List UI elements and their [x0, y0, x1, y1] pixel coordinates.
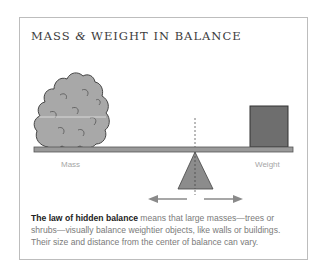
weight-label: Weight [255, 160, 280, 169]
tree-shrub-icon [34, 73, 109, 149]
caption-bold: The law of hidden balance [31, 213, 138, 223]
caption-text: The law of hidden balance means that lar… [31, 212, 299, 248]
weight-box-icon [250, 106, 288, 147]
left-right-arrows-icon [148, 195, 243, 203]
balance-beam [34, 147, 293, 152]
mass-label: Mass [61, 160, 80, 169]
